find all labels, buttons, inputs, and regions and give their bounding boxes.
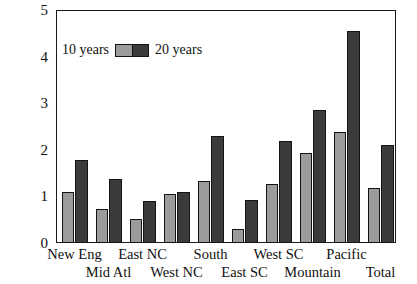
bar-group [300, 10, 326, 243]
bar-group [266, 10, 292, 243]
bar-20-years [75, 160, 88, 243]
x-axis-label-east-nc: East NC [118, 247, 167, 262]
bar-group [334, 10, 360, 243]
x-axis-label-mountain: Mountain [284, 265, 340, 280]
y-axis-tick-label: 4 [30, 49, 48, 64]
x-axis-label-pacific: Pacific [326, 247, 366, 262]
legend-swatch-20-years [132, 45, 149, 56]
bar-10-years [368, 188, 381, 243]
legend-label-10-years: 10 years [56, 43, 115, 57]
bar-10-years [266, 184, 279, 243]
bar-20-years [381, 145, 394, 243]
legend-swatch-10-years [116, 45, 132, 56]
y-axis-tick-label: 1 [30, 189, 48, 204]
x-axis-labels: New EngMid AtlEast NCWest NCSouthEast SC… [0, 243, 417, 284]
bar-10-years [300, 153, 313, 243]
bar-10-years [232, 229, 245, 243]
bar-20-years [279, 141, 292, 243]
bar-10-years [164, 194, 177, 243]
y-axis-tick-label: 2 [30, 142, 48, 157]
bar-20-years [211, 136, 224, 243]
bar-10-years [198, 181, 211, 243]
bar-10-years [130, 219, 143, 243]
bar-20-years [245, 200, 258, 243]
bar-10-years [62, 192, 75, 243]
x-axis-label-total: Total [366, 265, 396, 280]
bar-20-years [109, 179, 122, 243]
y-axis-tick-label: 5 [30, 3, 48, 18]
x-axis-label-west-sc: West SC [254, 247, 304, 262]
y-axis-tick-label: 3 [30, 96, 48, 111]
bar-20-years [313, 110, 326, 243]
bar-20-years [177, 192, 190, 243]
chart-legend: 10 years 20 years [56, 43, 208, 57]
x-axis-label-south: South [194, 247, 228, 262]
bar-10-years [334, 132, 347, 243]
x-axis-label-new-eng: New Eng [47, 247, 101, 262]
x-axis-label-west-nc: West NC [150, 265, 202, 280]
bar-20-years [347, 31, 360, 243]
legend-swatch-icon [115, 44, 149, 57]
bar-10-years [96, 209, 109, 243]
x-axis-label-east-sc: East SC [221, 265, 267, 280]
bar-group [368, 10, 394, 243]
x-axis-label-mid-atl: Mid Atl [86, 265, 132, 280]
legend-label-20-years: 20 years [149, 43, 208, 57]
bar-20-years [143, 201, 156, 243]
bar-chart: 012345 10 years 20 years New EngMid AtlE… [0, 0, 417, 284]
bar-group [232, 10, 258, 243]
